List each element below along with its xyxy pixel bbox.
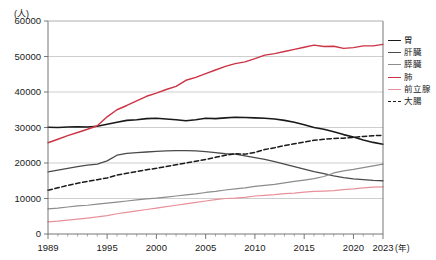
axis-ticks	[44, 21, 383, 239]
svg-text:10000: 10000	[15, 193, 41, 204]
x-axis-unit-label: (年)	[395, 243, 410, 253]
legend-item-label: 肺	[404, 73, 413, 82]
svg-text:2023: 2023	[372, 242, 393, 253]
legend-item[interactable]: 肝臓	[388, 48, 436, 57]
legend-line-swatch-icon	[388, 97, 401, 106]
legend-item-label: 膵臓	[404, 60, 422, 69]
svg-text:1995: 1995	[97, 242, 118, 253]
svg-text:2000: 2000	[146, 242, 167, 253]
chart-figure: (人) 0100002000030000400005000060000 1989…	[0, 0, 436, 260]
chart-legend: 胃肝臓膵臓肺前立腺大腸	[388, 36, 436, 106]
legend-line-swatch-icon	[388, 48, 401, 57]
legend-item-label: 前立腺	[404, 85, 431, 94]
legend-item[interactable]: 胃	[388, 36, 436, 45]
legend-item-label: 肝臓	[404, 48, 422, 57]
legend-item[interactable]: 前立腺	[388, 85, 436, 94]
svg-text:30000: 30000	[15, 122, 41, 133]
svg-text:20000: 20000	[15, 157, 41, 168]
legend-line-swatch-icon	[388, 85, 401, 94]
legend-item[interactable]: 膵臓	[388, 60, 436, 69]
legend-line-swatch-icon	[388, 73, 401, 82]
legend-item[interactable]: 大腸	[388, 97, 436, 106]
svg-text:2005: 2005	[195, 242, 216, 253]
svg-text:0: 0	[36, 228, 41, 239]
series-line	[48, 117, 383, 144]
x-axis-tick-labels: 19891995200020052010201520202023(年)	[37, 242, 409, 253]
data-series-group	[48, 44, 383, 222]
series-line	[48, 151, 383, 181]
legend-item[interactable]: 肺	[388, 73, 436, 82]
svg-text:50000: 50000	[15, 51, 41, 62]
legend-line-swatch-icon	[388, 36, 401, 45]
legend-item-label: 胃	[404, 36, 413, 45]
svg-text:60000: 60000	[15, 15, 41, 26]
series-line	[48, 44, 383, 142]
svg-text:1989: 1989	[37, 242, 58, 253]
svg-text:2020: 2020	[343, 242, 364, 253]
y-axis-tick-labels: 0100002000030000400005000060000	[15, 15, 41, 239]
series-line	[48, 164, 383, 209]
gridlines	[48, 21, 383, 199]
chart-canvas: 0100002000030000400005000060000 19891995…	[0, 0, 436, 260]
svg-text:2015: 2015	[294, 242, 315, 253]
legend-item-label: 大腸	[404, 97, 422, 106]
legend-line-swatch-icon	[388, 60, 401, 69]
svg-text:40000: 40000	[15, 86, 41, 97]
svg-text:2010: 2010	[244, 242, 265, 253]
